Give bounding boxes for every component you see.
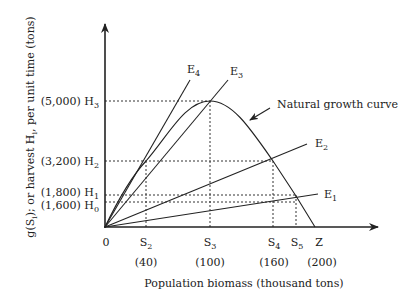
e4-label: E4 — [187, 63, 200, 78]
x-axis-title: Population biomass (thousand tons) — [144, 277, 343, 290]
h2-label: (3,200) H2 — [41, 155, 99, 170]
e2-line — [105, 144, 307, 227]
h0-label: (1,600) H0 — [41, 199, 99, 214]
e1-line — [105, 194, 318, 227]
s2-label: S2 — [140, 236, 153, 251]
h3-label: (5,000) H3 — [41, 95, 99, 110]
e3-label: E3 — [230, 65, 243, 80]
y-axis-title: g(Si); or harvest Hi, per unit time (ton… — [24, 16, 39, 237]
z-value: (200) — [307, 256, 337, 269]
s2-value: (40) — [135, 256, 158, 269]
s4-value: (160) — [259, 256, 289, 269]
z-label: Z — [315, 236, 323, 249]
s5-label: S5 — [291, 236, 304, 251]
e2-label: E2 — [315, 137, 328, 152]
annotation-arrow-icon — [250, 108, 270, 120]
e4-line — [105, 80, 190, 227]
s3-value: (100) — [195, 256, 225, 269]
curve-label: Natural growth curve — [277, 98, 398, 111]
chart: Natural growth curve E4 E3 E2 E1 (5,000)… — [0, 0, 410, 296]
natural-growth-curve — [105, 101, 315, 227]
s4-label: S4 — [268, 236, 281, 251]
guide-lines — [105, 101, 296, 227]
origin-label: 0 — [103, 236, 110, 249]
s3-label: S3 — [204, 236, 217, 251]
e1-label: E1 — [324, 188, 337, 203]
